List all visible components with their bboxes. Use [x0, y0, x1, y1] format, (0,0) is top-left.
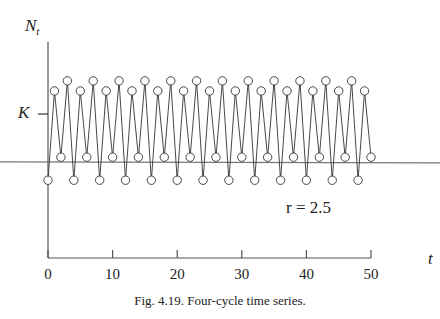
data-point-marker	[263, 153, 271, 161]
data-point-marker	[76, 87, 84, 95]
data-point-marker	[238, 153, 246, 161]
data-point-marker	[354, 176, 362, 184]
reference-line	[0, 162, 440, 163]
data-point-marker	[244, 77, 252, 85]
data-point-marker	[309, 87, 317, 95]
x-tick-label: 30	[227, 266, 257, 283]
data-point-marker	[315, 153, 323, 161]
data-point-marker	[83, 153, 91, 161]
data-point-marker	[192, 77, 200, 85]
data-point-marker	[141, 77, 149, 85]
data-point-marker	[341, 153, 349, 161]
data-point-marker	[367, 153, 375, 161]
data-point-marker	[225, 176, 233, 184]
data-point-marker	[134, 153, 142, 161]
x-tick-label: 10	[98, 266, 128, 283]
data-point-marker	[283, 87, 291, 95]
x-axis-label: t	[428, 249, 433, 269]
data-point-marker	[128, 87, 136, 95]
data-point-marker	[199, 176, 207, 184]
data-point-marker	[160, 153, 168, 161]
figure-caption: Fig. 4.19. Four-cycle time series.	[0, 293, 440, 309]
data-point-marker	[335, 87, 343, 95]
data-point-marker	[347, 77, 355, 85]
data-point-marker	[251, 176, 259, 184]
data-point-marker	[102, 87, 110, 95]
data-point-marker	[257, 87, 265, 95]
data-point-marker	[218, 77, 226, 85]
data-point-marker	[322, 77, 330, 85]
data-point-marker	[302, 176, 310, 184]
parameter-annotation: r = 2.5	[286, 198, 331, 218]
data-point-marker	[231, 87, 239, 95]
data-point-marker	[95, 176, 103, 184]
data-point-marker	[115, 77, 123, 85]
data-point-marker	[296, 77, 304, 85]
series-line	[48, 81, 371, 180]
data-point-marker	[205, 87, 213, 95]
data-point-marker	[186, 153, 194, 161]
data-point-marker	[360, 87, 368, 95]
data-point-marker	[179, 87, 187, 95]
data-point-marker	[121, 176, 129, 184]
data-point-marker	[50, 87, 58, 95]
x-tick-label: 50	[356, 266, 386, 283]
k-label: K	[18, 103, 29, 123]
data-point-marker	[154, 87, 162, 95]
data-point-marker	[212, 153, 220, 161]
data-point-marker	[173, 176, 181, 184]
data-point-marker	[70, 176, 78, 184]
data-point-marker	[289, 153, 297, 161]
data-series	[44, 77, 375, 185]
x-tick-label: 0	[33, 266, 63, 283]
data-point-marker	[270, 77, 278, 85]
data-point-marker	[44, 176, 52, 184]
data-point-marker	[89, 77, 97, 85]
data-point-marker	[328, 176, 336, 184]
axes	[0, 42, 440, 258]
x-tick-label: 40	[291, 266, 321, 283]
x-tick-label: 20	[162, 266, 192, 283]
data-point-marker	[276, 176, 284, 184]
data-point-marker	[167, 77, 175, 85]
data-point-marker	[63, 77, 71, 85]
data-point-marker	[108, 153, 116, 161]
data-point-marker	[147, 176, 155, 184]
data-point-marker	[57, 153, 65, 161]
y-axis-label: Nt	[25, 16, 39, 37]
